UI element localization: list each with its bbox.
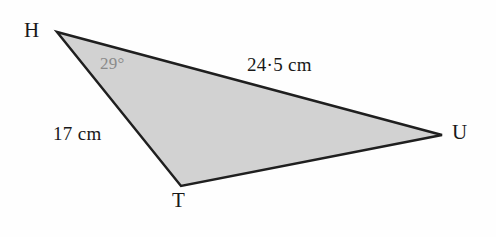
triangle-shape <box>0 0 496 237</box>
angle-label-h: 29° <box>100 55 124 72</box>
side-length-label-hu: 24·5 cm <box>247 55 312 74</box>
vertex-label-u: U <box>452 122 467 143</box>
side-length-label-ht: 17 cm <box>53 124 101 143</box>
vertex-label-h: H <box>24 20 39 41</box>
vertex-label-t: T <box>172 190 185 211</box>
triangle-figure: H T U 24·5 cm 17 cm 29° <box>0 0 496 237</box>
